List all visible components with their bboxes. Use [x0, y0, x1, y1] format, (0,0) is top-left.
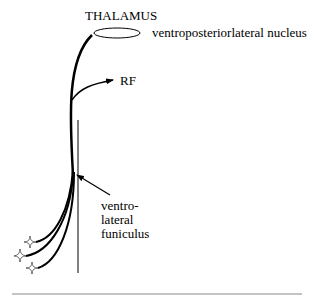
vlf-label-line-2: lateral [101, 213, 161, 227]
receptor-star-icon [24, 236, 36, 248]
afferent-fiber-2 [26, 175, 73, 256]
pathway-diagram [0, 0, 315, 295]
rf-label: RF [120, 74, 136, 88]
vlf-label-line-3: funiculus [101, 227, 161, 241]
vlf-label: ventro- lateral funiculus [101, 199, 161, 241]
main-tract-line [71, 35, 92, 175]
thalamus-label: THALAMUS [85, 9, 157, 23]
rf-collateral-arrow [72, 80, 113, 100]
vpl-nucleus-ellipse [94, 28, 140, 38]
receptor-star-icon [26, 262, 38, 274]
vpl-nucleus-label: ventroposteriorlateral nucleus [152, 26, 307, 40]
afferent-fiber-3 [38, 172, 74, 268]
receptor-star-icon [14, 249, 26, 262]
vlf-pointer-arrow [77, 175, 110, 195]
vlf-label-line-1: ventro- [101, 199, 161, 213]
